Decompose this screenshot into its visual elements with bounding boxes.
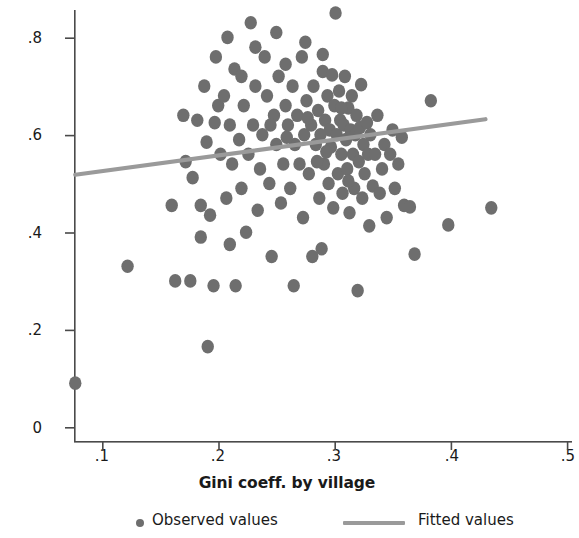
data-point (279, 99, 291, 113)
legend: Observed values Fitted values (0, 508, 574, 534)
data-point (235, 70, 247, 84)
data-point (442, 218, 454, 232)
data-point (69, 376, 81, 390)
data-point (218, 89, 230, 103)
data-point (293, 157, 305, 171)
data-point (425, 94, 437, 108)
data-point (202, 340, 214, 354)
data-point (204, 208, 216, 222)
data-point (265, 250, 277, 264)
data-point (392, 157, 404, 171)
data-point (121, 259, 133, 273)
data-point (272, 70, 284, 84)
data-point (249, 40, 261, 54)
data-point (346, 89, 358, 103)
data-point (209, 116, 221, 130)
data-point (264, 118, 276, 132)
data-point (380, 211, 392, 225)
legend-label-observed: Observed values (152, 511, 278, 529)
data-point (320, 145, 332, 159)
legend-marker-observed (136, 519, 144, 527)
data-point (313, 191, 325, 205)
data-point (358, 167, 370, 181)
data-point (275, 196, 287, 210)
data-point (374, 186, 386, 200)
data-point (303, 167, 315, 181)
data-point (245, 16, 257, 30)
data-point (343, 206, 355, 220)
data-point (286, 79, 298, 93)
data-point (339, 70, 351, 84)
data-point (369, 147, 381, 161)
data-point (184, 274, 196, 288)
data-point (224, 238, 236, 252)
data-point (235, 182, 247, 196)
data-point (277, 157, 289, 171)
data-point (207, 279, 219, 293)
data-point (186, 171, 198, 185)
data-point (335, 147, 347, 161)
data-point (299, 35, 311, 49)
data-point (341, 162, 353, 176)
data-points-group (69, 6, 497, 390)
data-point (258, 50, 270, 64)
data-point (350, 109, 362, 123)
data-point (282, 118, 294, 132)
data-point (263, 177, 275, 191)
data-point (371, 109, 383, 123)
data-point (389, 182, 401, 196)
data-point (210, 50, 222, 64)
data-point (270, 26, 282, 40)
data-point (247, 118, 259, 132)
data-point (200, 135, 212, 149)
data-point (229, 279, 241, 293)
data-point (284, 182, 296, 196)
data-point (333, 84, 345, 98)
data-point (376, 162, 388, 176)
data-point (226, 157, 238, 171)
data-point (336, 186, 348, 200)
data-point (335, 101, 347, 115)
data-point (342, 174, 354, 188)
data-point (254, 162, 266, 176)
data-point (166, 199, 178, 213)
data-point (485, 201, 497, 215)
data-point (315, 242, 327, 256)
data-point (408, 247, 420, 261)
data-point (177, 109, 189, 123)
data-point (297, 211, 309, 225)
data-point (363, 219, 375, 233)
data-point (404, 200, 416, 214)
data-point (356, 191, 368, 205)
data-point (326, 68, 338, 82)
data-point (307, 79, 319, 93)
data-point (195, 230, 207, 244)
data-point (220, 191, 232, 205)
data-point (355, 78, 367, 92)
data-point (221, 31, 233, 45)
data-point (238, 99, 250, 113)
data-point (288, 279, 300, 293)
data-point (329, 6, 341, 20)
data-point (291, 109, 303, 123)
data-point (195, 199, 207, 213)
data-point (279, 57, 291, 71)
data-point (224, 118, 236, 132)
data-point (327, 201, 339, 215)
data-point (198, 79, 210, 93)
data-point (281, 130, 293, 144)
data-point (300, 94, 312, 108)
data-point (261, 89, 273, 103)
data-point (240, 225, 252, 239)
data-point (191, 113, 203, 127)
data-point (322, 177, 334, 191)
data-point (361, 116, 373, 130)
data-point (169, 274, 181, 288)
data-point (351, 284, 363, 298)
data-point (301, 111, 313, 125)
data-point (296, 50, 308, 64)
data-point (311, 155, 323, 169)
data-point (317, 48, 329, 62)
